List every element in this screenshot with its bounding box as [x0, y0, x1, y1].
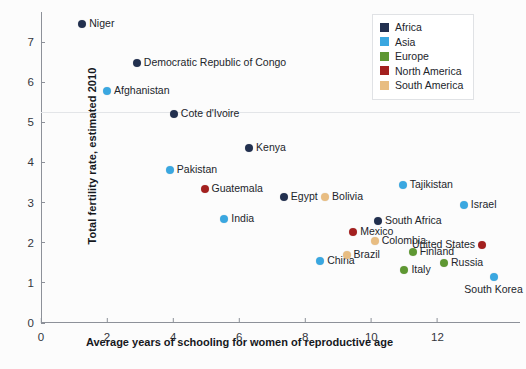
legend-label: Europe [395, 50, 429, 62]
data-point[interactable]: Guatemala [201, 185, 209, 193]
y-axis-line [41, 12, 42, 323]
data-point[interactable]: Mexico [349, 228, 357, 236]
x-axis-title: Average years of schooling for women of … [0, 336, 479, 348]
y-axis-tick-label: 6 [28, 76, 41, 88]
y-axis-tick-mark [41, 202, 45, 203]
data-point-label: Italy [411, 264, 430, 276]
y-axis-tick-label: 2 [28, 237, 41, 249]
data-point[interactable]: United States [478, 241, 486, 249]
data-point[interactable]: Kenya [245, 144, 253, 152]
data-point-marker [478, 241, 486, 249]
legend-item[interactable]: Africa [380, 20, 463, 35]
gridline [41, 112, 520, 113]
data-point[interactable]: Afghanistan [103, 87, 111, 95]
data-point-marker [280, 193, 288, 201]
y-axis-tick-label: 1 [28, 277, 41, 289]
scatter-chart: Total fertility rate, estimated 2010 012… [0, 0, 526, 369]
data-point[interactable]: Cote d'Ivoire [170, 110, 178, 118]
data-point[interactable]: Niger [78, 20, 86, 28]
x-axis-line [41, 322, 520, 323]
data-point[interactable]: Bolivia [321, 193, 329, 201]
legend: AfricaAsiaEuropeNorth AmericaSouth Ameri… [372, 14, 474, 100]
data-point-label: Tajikistan [410, 179, 453, 191]
data-point-label: Afghanistan [114, 85, 169, 97]
data-point-marker [374, 217, 382, 225]
data-point-label: Democratic Republic of Congo [144, 57, 286, 69]
data-point-marker [166, 166, 174, 174]
data-point-marker [220, 215, 228, 223]
data-point-marker [440, 259, 448, 267]
x-axis-tick-mark [173, 318, 174, 323]
data-point-label: Pakistan [177, 164, 217, 176]
legend-item[interactable]: South America [380, 78, 463, 93]
y-axis-tick-label: 7 [28, 36, 41, 48]
legend-label: Africa [395, 21, 422, 33]
y-axis-tick-mark [41, 282, 45, 283]
data-point[interactable]: South Africa [374, 217, 382, 225]
y-axis-tick-mark [41, 162, 45, 163]
data-point-label: South Korea [464, 284, 522, 296]
legend-item[interactable]: Asia [380, 35, 463, 50]
y-axis-tick-mark [41, 122, 45, 123]
y-axis-tick-mark [41, 42, 45, 43]
data-point-marker [316, 257, 324, 265]
x-axis-tick-mark [371, 318, 372, 323]
legend-swatch [380, 81, 389, 90]
x-axis-tick-mark [437, 318, 438, 323]
y-axis-tick-mark [41, 242, 45, 243]
data-point-label: Bolivia [332, 191, 363, 203]
data-point-label: Cote d'Ivoire [181, 108, 240, 120]
data-point-marker [245, 144, 253, 152]
data-point-label: Niger [89, 18, 114, 30]
legend-item[interactable]: Europe [380, 49, 463, 64]
legend-swatch [380, 52, 389, 61]
data-point-marker [170, 110, 178, 118]
data-point-label: Russia [451, 257, 483, 269]
data-point[interactable]: Tajikistan [399, 181, 407, 189]
x-axis-tick-mark [41, 318, 42, 323]
data-point[interactable]: China [316, 257, 324, 265]
data-point[interactable]: Russia [440, 259, 448, 267]
data-point-marker [490, 273, 498, 281]
data-point[interactable]: Italy [400, 266, 408, 274]
legend-label: North America [395, 65, 462, 77]
data-point[interactable]: Brazil [343, 251, 351, 259]
data-point[interactable]: Pakistan [166, 166, 174, 174]
data-point[interactable]: South Korea [490, 273, 498, 281]
legend-swatch [380, 23, 389, 32]
legend-item[interactable]: North America [380, 64, 463, 79]
data-point-label: Israel [471, 199, 497, 211]
data-point-marker [343, 251, 351, 259]
data-point[interactable]: Colombia [371, 237, 379, 245]
legend-swatch [380, 66, 389, 75]
data-point[interactable]: Israel [460, 201, 468, 209]
legend-swatch [380, 37, 389, 46]
data-point-marker [460, 201, 468, 209]
data-point-label: Colombia [382, 235, 426, 247]
data-point-label: Brazil [354, 249, 380, 261]
data-point-marker [201, 185, 209, 193]
data-point-marker [400, 266, 408, 274]
data-point-marker [78, 20, 86, 28]
data-point-label: Guatemala [212, 183, 263, 195]
data-point-label: India [231, 213, 254, 225]
data-point-label: Egypt [291, 191, 318, 203]
data-point[interactable]: Democratic Republic of Congo [133, 59, 141, 67]
x-axis-tick-mark [239, 318, 240, 323]
data-point-marker [321, 193, 329, 201]
legend-label: Asia [395, 36, 415, 48]
data-point-marker [399, 181, 407, 189]
data-point-marker [349, 228, 357, 236]
x-axis-tick-mark [107, 318, 108, 323]
legend-label: South America [395, 79, 463, 91]
y-axis-tick-mark [41, 82, 45, 83]
data-point-marker [103, 87, 111, 95]
data-point-marker [371, 237, 379, 245]
data-point[interactable]: India [220, 215, 228, 223]
y-axis-tick-label: 5 [28, 116, 41, 128]
x-axis-tick-mark [305, 318, 306, 323]
data-point[interactable]: Egypt [280, 193, 288, 201]
data-point-marker [133, 59, 141, 67]
y-axis-tick-label: 3 [28, 197, 41, 209]
y-axis-tick-label: 4 [28, 156, 41, 168]
